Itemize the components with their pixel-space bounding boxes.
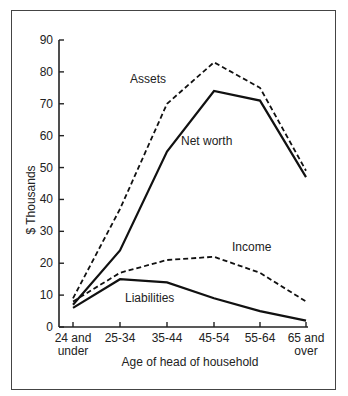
x-axis: 24 andunder25-3435-4445-5455-6465 andove… <box>55 322 325 358</box>
line-chart: 0102030405060708090 24 andunder25-3435-4… <box>0 0 348 396</box>
x-tick-label: under <box>58 344 89 358</box>
y-tick-label: 20 <box>40 256 54 270</box>
x-tick-label: over <box>294 344 317 358</box>
x-tick-label: 45-54 <box>199 331 230 345</box>
y-axis-title: $ Thousands <box>24 165 38 234</box>
series-lines <box>73 62 306 320</box>
series-label-net-worth: Net worth <box>181 134 232 148</box>
x-axis-title: Age of head of household <box>122 355 259 369</box>
x-tick-label: 35-44 <box>152 331 183 345</box>
x-tick-label: 65 and <box>288 331 325 345</box>
series-line-net-worth <box>73 91 306 305</box>
series-line-liabilities <box>73 279 306 320</box>
y-tick-label: 80 <box>40 65 54 79</box>
x-tick-label: 25-34 <box>105 331 136 345</box>
y-tick-label: 90 <box>40 33 54 47</box>
series-label-assets: Assets <box>130 72 166 86</box>
y-tick-label: 50 <box>40 161 54 175</box>
y-tick-label: 10 <box>40 288 54 302</box>
y-tick-label: 40 <box>40 192 54 206</box>
x-tick-label: 55-64 <box>245 331 276 345</box>
series-label-liabilities: Liabilities <box>125 291 174 305</box>
y-tick-label: 30 <box>40 224 54 238</box>
y-tick-label: 70 <box>40 97 54 111</box>
y-tick-label: 60 <box>40 129 54 143</box>
y-axis: 0102030405060708090 <box>40 33 64 334</box>
x-tick-label: 24 and <box>55 331 92 345</box>
y-tick-label: 0 <box>46 320 53 334</box>
series-label-income: Income <box>232 240 272 254</box>
